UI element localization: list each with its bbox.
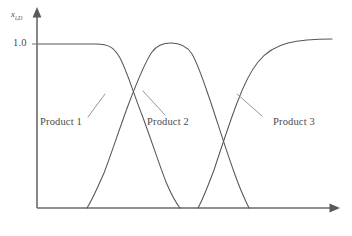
y-axis-arrowhead (33, 7, 42, 18)
series-label-product-2: Product 2 (147, 116, 189, 127)
leader-line-product-3 (237, 94, 262, 116)
x-axis-arrowhead (330, 203, 341, 212)
y-axis-label-subscript: i,D (15, 15, 23, 21)
leader-line-product-1 (88, 94, 105, 117)
y-axis-label: xi,D (11, 9, 22, 21)
series-label-product-1: Product 1 (40, 116, 82, 127)
series-label-product-3: Product 3 (273, 116, 315, 127)
y-axis (32, 7, 41, 208)
chart-figure: xi,D 1.0 Product 1 Product 2 Product 3 (0, 0, 352, 236)
y-axis-tick-label-1: 1.0 (13, 37, 27, 48)
leader-line-product-2 (143, 91, 165, 115)
x-axis (37, 203, 340, 212)
